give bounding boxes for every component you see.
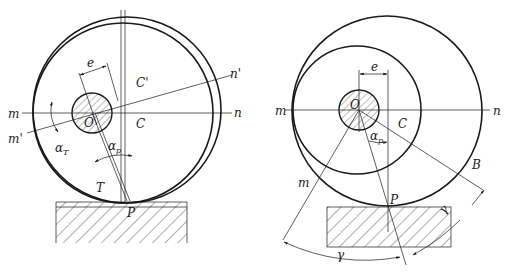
mechanism-diagram: m m' n n' O C C' e αT αp T P: [0, 0, 505, 274]
label-n: n: [234, 106, 242, 120]
label-P-right: P: [389, 193, 399, 207]
ground-block-right: [327, 207, 451, 247]
label-alpha-p: αp: [108, 139, 121, 155]
label-O-right: O: [350, 98, 360, 112]
label-m: m: [8, 107, 19, 121]
left-panel: m m' n n' O C C' e αT αp T P: [8, 10, 242, 243]
m-prime-n-prime-line: [27, 75, 232, 133]
ground-block-left: [56, 202, 187, 243]
outer-wheel-rim: [33, 17, 221, 203]
alpha-t-arc: [51, 102, 58, 132]
label-C-prime: C': [136, 76, 148, 90]
alpha-p-arc: [95, 155, 132, 162]
label-gamma: γ: [337, 248, 345, 262]
label-O: O: [84, 116, 94, 130]
label-C: C: [136, 117, 145, 131]
label-n-right: n: [493, 104, 501, 118]
label-B: B: [471, 158, 481, 172]
label-m-lower: m: [298, 176, 309, 190]
label-n-prime: n': [230, 67, 241, 81]
label-e: e: [87, 56, 94, 70]
label-e-right: e: [371, 60, 378, 74]
label-m-right: m: [275, 104, 286, 118]
label-alpha-p-right: αp: [370, 129, 383, 145]
label-T: T: [96, 181, 105, 195]
outer-wheel-rim-right: [292, 16, 482, 206]
label-C-right: C: [398, 117, 407, 131]
label-alpha-t: αT: [55, 141, 69, 157]
right-panel: m n m O C e αp B P γ γ: [275, 16, 501, 265]
label-m-prime: m': [8, 132, 23, 146]
label-P: P: [126, 206, 136, 220]
